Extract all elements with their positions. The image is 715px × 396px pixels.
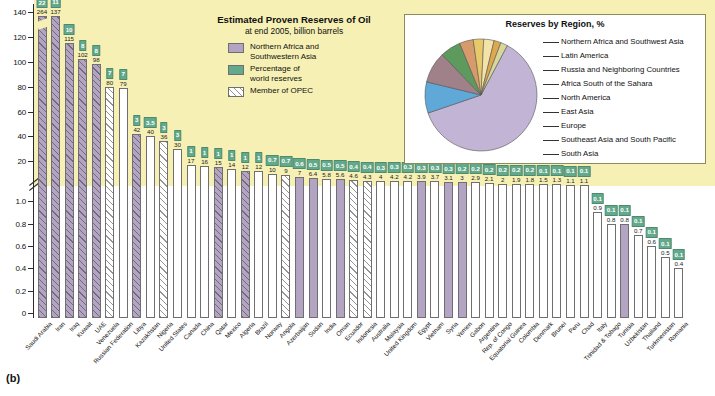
pie-label-list: Northern Africa and Southwest AsiaLatin … xyxy=(543,35,705,159)
bar xyxy=(159,141,168,318)
bar-percent-badge: 0.1 xyxy=(551,165,564,176)
pie-leader-line xyxy=(543,70,559,71)
bar-percent-badge: 7 xyxy=(106,68,113,79)
bar-percent-badge: 8 xyxy=(92,45,99,56)
y-tick-label: 0.2 xyxy=(2,287,26,296)
bar xyxy=(485,183,494,318)
pie-title: Reserves by Region, % xyxy=(405,19,705,29)
bar-value-label: 16 xyxy=(201,158,208,165)
bar-percent-badge: 1 xyxy=(255,152,262,163)
bar-percent-badge: 0.5 xyxy=(307,159,320,170)
pie-chart xyxy=(421,35,541,155)
y-tick-label: 100 xyxy=(2,58,26,67)
bar xyxy=(268,174,277,318)
bar-value-label: 36 xyxy=(160,133,167,140)
y-tick-label: 0.6 xyxy=(2,242,26,251)
bar-percent-badge: 0.2 xyxy=(496,165,509,176)
bar-percent-badge: 0.2 xyxy=(469,163,482,174)
bar-percent-badge: 0.2 xyxy=(523,165,536,176)
y-tick-label: 60 xyxy=(2,108,26,117)
bar-percent-badge: 7 xyxy=(120,69,127,80)
bar-column: 363 xyxy=(159,0,168,318)
pie-slice-label: Africa South of the Sahara xyxy=(561,79,652,88)
bar-value-label: 40 xyxy=(147,128,154,135)
bar-value-label: 2.9 xyxy=(471,174,480,181)
bar xyxy=(105,87,114,318)
bar-value-label: 1.8 xyxy=(525,176,534,183)
bar-percent-badge: 1 xyxy=(201,147,208,158)
bar-column: 1028 xyxy=(78,0,87,318)
bar-column: 171 xyxy=(187,0,196,318)
legend-swatch-purple xyxy=(228,43,244,53)
bar-value-label: 10 xyxy=(269,166,276,173)
bar-value-label: 4.6 xyxy=(349,172,358,179)
bar xyxy=(214,167,223,318)
bar-value-label: 98 xyxy=(93,56,100,63)
bar-percent-badge: 3 xyxy=(160,122,167,133)
bar-percent-badge: 0.1 xyxy=(591,193,604,204)
y-tick-label: 140 xyxy=(2,8,26,17)
legend-label-opec: Member of OPEC xyxy=(250,86,313,96)
bar-value-label: 0.6 xyxy=(647,238,656,245)
pie-slice-label: Northern Africa and Southwest Asia xyxy=(561,37,684,46)
bar xyxy=(187,165,196,318)
bar-percent-badge: 1 xyxy=(228,150,235,161)
bar-value-label: 12 xyxy=(242,163,249,170)
bar xyxy=(539,184,548,318)
bar xyxy=(444,182,453,318)
bar-percent-badge: 11 xyxy=(50,0,61,8)
legend-item-opec: Member of OPEC xyxy=(228,86,392,97)
bar-value-label: 5.6 xyxy=(336,171,345,178)
bar-value-label: 115 xyxy=(64,35,74,42)
bar xyxy=(254,171,263,318)
bar xyxy=(309,178,318,318)
figure-caption: (b) xyxy=(6,372,20,384)
bar-percent-badge: 0.1 xyxy=(618,205,631,216)
bar-percent-badge: 0.5 xyxy=(320,160,333,171)
bar xyxy=(281,175,290,318)
pie-leader-line xyxy=(543,154,559,155)
bar-percent-badge: 1 xyxy=(242,152,249,163)
bar-percent-badge: 0.1 xyxy=(632,216,645,227)
bar-value-label: 3.1 xyxy=(444,174,453,181)
bar-value-label: 1.3 xyxy=(553,176,562,183)
chart-title: Estimated Proven Reserves of Oil xyxy=(196,14,392,26)
pie-slice-label: South Asia xyxy=(561,149,598,158)
bar-percent-badge: 1 xyxy=(214,148,221,159)
legend-label-percentage: Percentage ofworld reserves xyxy=(250,64,302,83)
bar xyxy=(132,134,141,318)
bar-value-label: 0.5 xyxy=(661,249,670,256)
chart-subtitle: at end 2005, billion barrels xyxy=(196,26,392,37)
bar xyxy=(390,181,399,318)
bar-column: 303 xyxy=(173,0,182,318)
bar xyxy=(512,184,521,318)
legend-swatch-green xyxy=(228,65,244,75)
y-tick-label: 0.4 xyxy=(2,264,26,273)
bar-percent-badge: 3 xyxy=(133,115,140,126)
bar xyxy=(580,185,589,318)
bar-value-label: 1.1 xyxy=(566,177,575,184)
bar-value-label: 0.7 xyxy=(634,227,643,234)
bar-column: 807 xyxy=(105,0,114,318)
y-tick-label: 1.0 xyxy=(2,197,26,206)
bar-value-label: 137 xyxy=(50,8,60,15)
bar-value-label: 264 xyxy=(37,8,47,15)
y-tick-label: 80 xyxy=(2,83,26,92)
pie-slice-label: North America xyxy=(561,93,610,102)
bar-percent-badge: 0.2 xyxy=(456,163,469,174)
bar-column: 13711 xyxy=(51,0,60,318)
bar xyxy=(607,224,616,319)
bar-percent-badge: 0.1 xyxy=(673,249,686,260)
bar xyxy=(674,268,683,318)
bar xyxy=(471,182,480,318)
bar-value-label: 0.8 xyxy=(620,216,629,223)
bar-value-label: 3.9 xyxy=(417,173,426,180)
bar xyxy=(322,179,331,318)
bar-percent-badge: 0.3 xyxy=(388,162,401,173)
bar xyxy=(227,169,236,318)
bar-value-label: 4 xyxy=(379,173,382,180)
pie-leader-line xyxy=(543,112,559,113)
bar-value-label: 30 xyxy=(174,141,181,148)
bar-percent-badge: 8 xyxy=(79,40,86,51)
bar xyxy=(593,212,602,318)
